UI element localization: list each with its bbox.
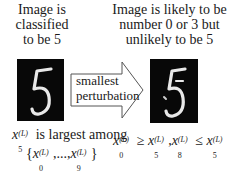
left-condition-line2: {x(L)0,...,x(L)9} [26, 146, 97, 162]
digit-five-icon [17, 59, 64, 121]
right-caption: Image is likely to be number 0 or 3 but … [100, 2, 239, 47]
arrow-label: smallest perturbation [76, 73, 132, 103]
perturbed-digit-image [150, 59, 198, 123]
left-condition-line1: x(L)5 is largest among [12, 127, 127, 143]
left-caption: Image is classified to be 5 [10, 2, 74, 47]
original-digit-image [17, 59, 64, 121]
right-condition: x(L)0 ≥ x(L)5,x(L)8 ≤ x(L)5 [113, 133, 227, 149]
digit-five-icon [150, 59, 198, 123]
